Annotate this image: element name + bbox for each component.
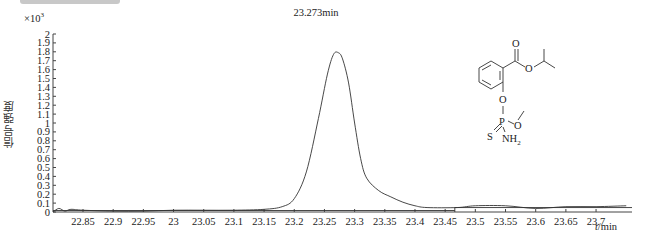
x-tick-label: 23.55 <box>494 216 518 227</box>
x-tick-label: 22.9 <box>104 216 122 227</box>
x-tick-label: 23.45 <box>433 216 457 227</box>
svg-text:P: P <box>499 116 505 127</box>
x-tick-label: 23.65 <box>554 216 578 227</box>
svg-text:O: O <box>525 63 533 74</box>
svg-text:S: S <box>487 131 493 142</box>
axes: 00.10.20.30.40.50.60.70.80.911.11.21.31.… <box>37 29 632 228</box>
peak-label: 23.273min <box>293 7 339 18</box>
x-tick-label: 23.35 <box>373 216 397 227</box>
y-tick-label: 2 <box>45 29 50 40</box>
x-tick-label: 22.95 <box>132 216 156 227</box>
x-tick-label: 23.4 <box>406 216 425 227</box>
trace-line <box>53 52 632 212</box>
x-tick-label: 23 <box>168 216 179 227</box>
svg-text:O: O <box>499 94 507 105</box>
molecule-structure-icon: O O O P O S NH2 <box>479 38 555 147</box>
chromatogram-chart: 00.10.20.30.40.50.60.70.80.911.11.21.31.… <box>0 0 652 243</box>
x-tick-label: 23.05 <box>192 216 216 227</box>
x-tick-label: 22.85 <box>71 216 95 227</box>
x-tick-label: 23.6 <box>527 216 545 227</box>
x-tick-label: 23.2 <box>285 216 303 227</box>
x-tick-label: 23.1 <box>225 216 243 227</box>
svg-text:O: O <box>514 120 522 131</box>
y-multiplier: ×103 <box>24 11 44 24</box>
svg-text:O: O <box>512 38 520 49</box>
x-axis-label: t/min <box>595 221 618 232</box>
x-tick-label: 23.3 <box>345 216 363 227</box>
x-tick-label: 23.25 <box>313 216 337 227</box>
x-tick-label: 23.15 <box>252 216 276 227</box>
svg-text:NH2: NH2 <box>502 133 521 147</box>
x-tick-label: 23.5 <box>466 216 484 227</box>
